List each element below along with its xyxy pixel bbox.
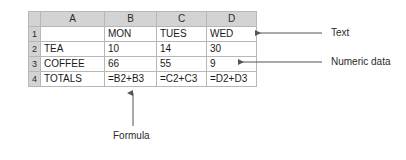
grid-corner[interactable] [29, 12, 41, 27]
row-header-4[interactable]: 4 [29, 72, 41, 87]
annotation-label-formula: Formula [113, 130, 150, 142]
column-header-d[interactable]: D [207, 12, 257, 27]
column-header-row: A B C D [29, 12, 257, 27]
annotation-label-text: Text [331, 27, 349, 39]
cell-d1[interactable]: WED [207, 27, 257, 42]
cell-b2[interactable]: 10 [105, 42, 157, 57]
cell-a1[interactable] [41, 27, 105, 42]
cell-d2[interactable]: 30 [207, 42, 257, 57]
cell-a4[interactable]: TOTALS [41, 72, 105, 87]
annotation-label-numeric-data: Numeric data [331, 56, 390, 68]
row-header-3[interactable]: 3 [29, 57, 41, 72]
cell-b4[interactable]: =B2+B3 [105, 72, 157, 87]
table-row: 4 TOTALS =B2+B3 =C2+C3 =D2+D3 [29, 72, 257, 87]
spreadsheet-diagram: A B C D 1 MON TUES WED 2 TEA 10 14 30 [0, 0, 406, 160]
column-header-a[interactable]: A [41, 12, 105, 27]
cell-b3[interactable]: 66 [105, 57, 157, 72]
cell-c3[interactable]: 55 [157, 57, 207, 72]
cell-a2[interactable]: TEA [41, 42, 105, 57]
cell-d4[interactable]: =D2+D3 [207, 72, 257, 87]
row-header-1[interactable]: 1 [29, 27, 41, 42]
table-row: 3 COFFEE 66 55 9 [29, 57, 257, 72]
table-row: 1 MON TUES WED [29, 27, 257, 42]
cell-c2[interactable]: 14 [157, 42, 207, 57]
column-header-b[interactable]: B [105, 12, 157, 27]
row-header-2[interactable]: 2 [29, 42, 41, 57]
cell-a3[interactable]: COFFEE [41, 57, 105, 72]
cell-b1[interactable]: MON [105, 27, 157, 42]
spreadsheet-grid: A B C D 1 MON TUES WED 2 TEA 10 14 30 [28, 11, 257, 87]
column-header-c[interactable]: C [157, 12, 207, 27]
cell-c4[interactable]: =C2+C3 [157, 72, 207, 87]
table-row: 2 TEA 10 14 30 [29, 42, 257, 57]
cell-d3[interactable]: 9 [207, 57, 257, 72]
cell-c1[interactable]: TUES [157, 27, 207, 42]
